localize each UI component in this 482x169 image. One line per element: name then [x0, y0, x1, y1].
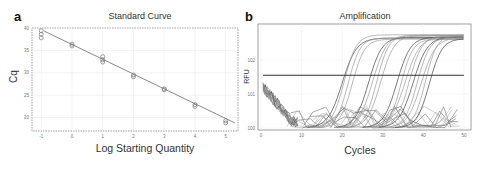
svg-text:0: 0	[71, 134, 74, 139]
svg-text:30: 30	[380, 133, 386, 138]
svg-text:50: 50	[461, 133, 467, 138]
svg-text:35: 35	[24, 48, 30, 53]
amplification-plot: 01020304050100101102	[247, 24, 471, 138]
svg-text:0: 0	[260, 133, 263, 138]
chart-canvas: -1012345202530354001020304050100101102	[0, 0, 482, 169]
svg-text:3: 3	[163, 134, 166, 139]
svg-text:5: 5	[224, 134, 227, 139]
svg-text:20: 20	[24, 115, 30, 120]
standard-curve-plot: -10123452025303540	[24, 26, 238, 140]
svg-text:40: 40	[421, 133, 427, 138]
svg-text:40: 40	[24, 26, 30, 31]
svg-text:102: 102	[247, 58, 255, 63]
svg-text:101: 101	[247, 92, 255, 97]
svg-text:1: 1	[101, 134, 104, 139]
svg-text:-1: -1	[39, 134, 43, 139]
svg-text:20: 20	[340, 133, 346, 138]
svg-text:4: 4	[194, 134, 197, 139]
svg-text:10: 10	[299, 133, 305, 138]
svg-text:2: 2	[132, 134, 135, 139]
svg-text:25: 25	[24, 93, 30, 98]
svg-text:30: 30	[24, 70, 30, 75]
svg-text:100: 100	[247, 126, 255, 131]
